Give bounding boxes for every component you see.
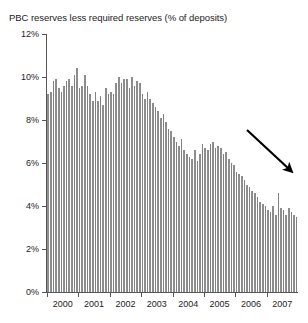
bar: [142, 94, 144, 292]
bar: [265, 206, 267, 292]
bar: [92, 101, 94, 292]
bar: [131, 77, 133, 292]
bar: [47, 94, 49, 292]
bar: [220, 148, 222, 292]
bar: [191, 159, 193, 292]
bar: [71, 86, 73, 292]
bar: [244, 180, 246, 292]
chart-figure: PBC reserves less required reserves (% o…: [0, 0, 308, 323]
bar: [163, 114, 165, 292]
bar: [207, 150, 209, 292]
bar: [63, 86, 65, 292]
bar: [223, 154, 225, 292]
x-axis-tick-mark: [267, 293, 268, 297]
bar: [74, 75, 76, 292]
bar: [283, 210, 285, 292]
bar: [194, 150, 196, 292]
bar: [217, 146, 219, 292]
bar: [147, 92, 149, 292]
bar: [66, 81, 68, 292]
bar: [238, 174, 240, 292]
bar: [165, 122, 167, 292]
bar: [257, 197, 259, 292]
bar: [84, 75, 86, 292]
bar: [121, 83, 123, 292]
bar: [168, 129, 170, 292]
x-axis-tick-mark: [141, 293, 142, 297]
bar: [241, 176, 243, 292]
bar: [183, 150, 185, 292]
plot-area: [47, 34, 298, 292]
bar: [231, 163, 233, 292]
bar: [197, 161, 199, 292]
bar: [118, 77, 120, 292]
x-axis-tick-mark: [173, 293, 174, 297]
x-axis-tick-mark: [235, 293, 236, 297]
bar: [259, 202, 261, 292]
bar: [50, 92, 52, 292]
x-axis-tick-label: 2004: [178, 299, 198, 309]
bar: [225, 152, 227, 292]
bar: [178, 146, 180, 292]
bar: [246, 185, 248, 293]
bar: [199, 154, 201, 292]
bar: [210, 144, 212, 292]
x-axis-tick-label: 2007: [272, 299, 292, 309]
bar: [55, 79, 57, 292]
bar: [53, 81, 55, 292]
bar: [251, 191, 253, 292]
bar: [160, 118, 162, 292]
bar: [108, 94, 110, 292]
bar: [129, 88, 131, 292]
bar: [115, 83, 117, 292]
bar: [215, 148, 217, 292]
bar: [176, 142, 178, 293]
bar: [100, 96, 102, 292]
bar: [254, 193, 256, 292]
bar: [110, 92, 112, 292]
bar: [95, 92, 97, 292]
bar: [249, 187, 251, 292]
bar: [76, 68, 78, 292]
bar: [288, 208, 290, 292]
bar: [113, 94, 115, 292]
bar: [157, 111, 159, 292]
bar: [204, 148, 206, 292]
bar: [152, 103, 154, 292]
bar: [228, 159, 230, 292]
bar: [296, 217, 298, 292]
bar: [105, 88, 107, 292]
bar: [267, 210, 269, 292]
bar: [181, 139, 183, 292]
bar: [278, 193, 280, 292]
bar: [102, 105, 104, 292]
bar: [236, 172, 238, 292]
bar: [61, 92, 63, 292]
x-axis-tick-mark: [78, 293, 79, 297]
bar: [285, 215, 287, 292]
bar: [280, 208, 282, 292]
bar: [275, 215, 277, 292]
x-axis-tick-label: 2001: [84, 299, 104, 309]
bar: [291, 212, 293, 292]
x-axis-tick-mark: [110, 293, 111, 297]
x-axis-line: [46, 292, 298, 293]
bar: [155, 107, 157, 292]
bar: [189, 157, 191, 292]
bar: [139, 83, 141, 292]
bar: [270, 212, 272, 292]
bar: [126, 79, 128, 292]
bar: [202, 144, 204, 292]
bar: [212, 142, 214, 293]
bar: [272, 206, 274, 292]
bar: [144, 99, 146, 293]
bar: [293, 215, 295, 292]
bar: [89, 94, 91, 292]
bar: [79, 88, 81, 292]
x-axis-tick-label: 2002: [115, 299, 135, 309]
bar: [149, 99, 151, 293]
bar: [233, 165, 235, 292]
x-axis-tick-label: 2005: [210, 299, 230, 309]
x-axis-tick-label: 2003: [147, 299, 167, 309]
bar: [173, 137, 175, 292]
